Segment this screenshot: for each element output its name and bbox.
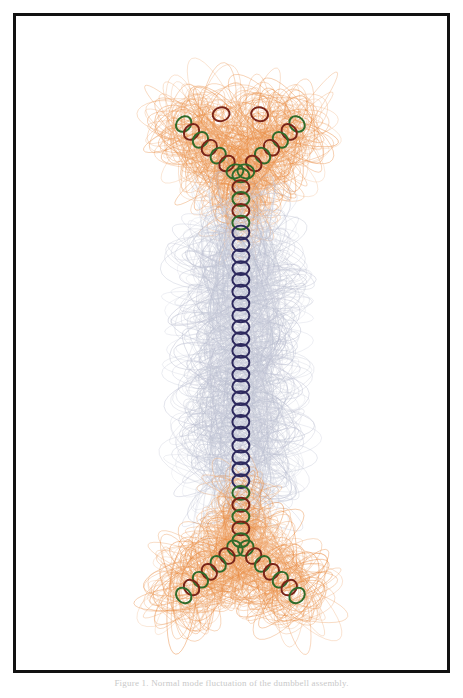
trace-layer <box>126 51 353 657</box>
page-canvas: Figure 1. Normal mode fluctuation of the… <box>0 0 463 698</box>
figure-caption-text: Figure 1. Normal mode fluctuation of the… <box>13 678 450 689</box>
figure-frame <box>13 13 450 673</box>
figure-caption: Figure 1. Normal mode fluctuation of the… <box>13 678 450 698</box>
figure-plot <box>16 16 447 670</box>
